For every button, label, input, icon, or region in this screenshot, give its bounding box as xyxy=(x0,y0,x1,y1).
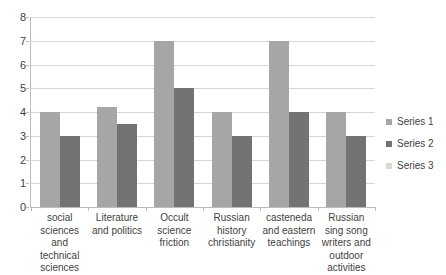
bar xyxy=(60,136,80,207)
legend-swatch-icon xyxy=(386,141,392,147)
x-axis-label: Russian sing song writers and outdoor ac… xyxy=(318,212,375,275)
x-axis-tick-mark xyxy=(318,207,319,211)
y-axis-tick-label: 7 xyxy=(4,36,26,47)
legend-swatch-icon xyxy=(386,163,392,169)
bar-group xyxy=(31,17,88,207)
bar xyxy=(174,88,194,207)
y-axis-tick-label: 8 xyxy=(4,12,26,23)
legend-swatch-icon xyxy=(386,119,392,125)
y-axis-tick-mark xyxy=(26,207,29,208)
x-axis-label: Russian history christianity xyxy=(203,212,260,275)
bar-group xyxy=(203,17,260,207)
x-axis-label: Occult science friction xyxy=(146,212,203,275)
legend-item[interactable]: Series 2 xyxy=(386,133,446,155)
bar xyxy=(289,112,309,207)
bar xyxy=(212,112,232,207)
y-axis-tick-label: 1 xyxy=(4,178,26,189)
legend-item[interactable]: Series 3 xyxy=(386,155,446,177)
legend-label: Series 2 xyxy=(397,139,434,149)
x-axis-tick-mark xyxy=(203,207,204,211)
bar xyxy=(269,41,289,207)
y-axis-tick-mark xyxy=(26,136,29,137)
y-axis-tick-mark xyxy=(26,17,29,18)
x-axis-tick-mark xyxy=(31,207,32,211)
bar xyxy=(326,112,346,207)
bar xyxy=(117,124,137,207)
bar xyxy=(154,41,174,207)
legend-label: Series 1 xyxy=(397,117,434,127)
legend-item[interactable]: Series 1 xyxy=(386,111,446,133)
legend-label: Series 3 xyxy=(397,161,434,171)
bar xyxy=(97,107,117,207)
y-axis-tick-label: 3 xyxy=(4,131,26,142)
y-axis-tick-label: 4 xyxy=(4,107,26,118)
x-axis-tick-mark xyxy=(88,207,89,211)
x-axis-label: Literature and politics xyxy=(88,212,145,275)
x-axis-tick-mark xyxy=(260,207,261,211)
legend: Series 1Series 2Series 3 xyxy=(386,111,446,177)
bar-groups xyxy=(31,17,375,207)
y-axis-tick-mark xyxy=(26,41,29,42)
y-axis-tick-mark xyxy=(26,183,29,184)
x-axis-tick-mark xyxy=(375,207,376,211)
bar-group xyxy=(88,17,145,207)
y-axis-tick-mark xyxy=(26,65,29,66)
x-axis-label: casteneda and eastern teachings xyxy=(260,212,317,275)
bar-group xyxy=(146,17,203,207)
y-axis-tick-mark xyxy=(26,160,29,161)
y-axis-tick-label: 2 xyxy=(4,155,26,166)
bar-group xyxy=(260,17,317,207)
bar xyxy=(346,136,366,207)
y-axis-tick-label: 6 xyxy=(4,60,26,71)
bar xyxy=(232,136,252,207)
x-axis-labels: social sciences and technical sciencesLi… xyxy=(31,212,375,275)
x-axis-tick-mark xyxy=(146,207,147,211)
bar-group xyxy=(318,17,375,207)
x-axis-label: social sciences and technical sciences xyxy=(31,212,88,275)
y-axis-ticks: 876543210 xyxy=(0,17,26,207)
y-axis-tick-label: 5 xyxy=(4,83,26,94)
y-axis-tick-mark xyxy=(26,88,29,89)
bar xyxy=(40,112,60,207)
y-axis-tick-mark xyxy=(26,112,29,113)
y-axis-tick-label: 0 xyxy=(4,202,26,213)
